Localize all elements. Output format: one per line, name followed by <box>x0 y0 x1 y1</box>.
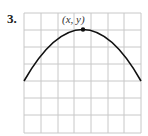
vertex-point <box>81 27 85 31</box>
point-label: (x, y) <box>62 13 85 25</box>
parabola-curve <box>24 30 141 82</box>
